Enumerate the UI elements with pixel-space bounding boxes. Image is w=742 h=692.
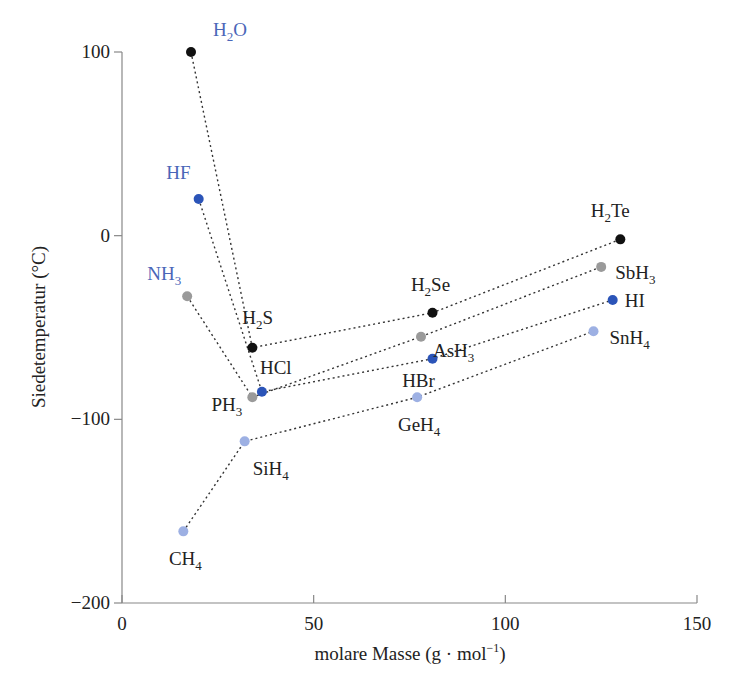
data-point-hcl: [257, 387, 267, 397]
point-label-h2o: H2O: [213, 19, 247, 44]
x-tick-label: 50: [304, 613, 323, 634]
point-label-h2te: H2Te: [591, 200, 630, 225]
series-connector: [183, 331, 593, 531]
y-axis-title: Siedetemperatur (°C): [28, 246, 50, 408]
data-point-h2o: [186, 47, 196, 57]
y-tick-label: −100: [71, 408, 110, 429]
series-connector: [191, 52, 620, 348]
data-points: [178, 47, 625, 536]
data-point-ph3: [247, 392, 257, 402]
point-label-sbh3: SbH3: [615, 262, 655, 287]
x-axis-title: molare Masse (g · mol−1): [314, 641, 505, 665]
data-point-h2se: [428, 308, 438, 318]
y-tick-label: 100: [82, 41, 111, 62]
data-point-hf: [194, 194, 204, 204]
point-label-h2se: H2Se: [411, 274, 450, 299]
point-label-hbr: HBr: [402, 370, 435, 391]
data-point-ch4: [178, 526, 188, 536]
data-point-ash3: [416, 332, 426, 342]
connector-lines: [183, 52, 620, 531]
x-ticks: 050100150: [117, 595, 711, 634]
axes: 1000−100−200 050100150 Siedetemperatur (…: [28, 41, 711, 665]
boiling-point-chart: 1000−100−200 050100150 Siedetemperatur (…: [0, 0, 742, 692]
x-tick-label: 100: [491, 613, 520, 634]
data-point-hi: [608, 295, 618, 305]
point-label-ph3: PH3: [212, 394, 243, 419]
y-tick-label: −200: [71, 592, 110, 613]
point-label-h2s: H2S: [242, 307, 273, 332]
point-labels: H2OH2SH2SeH2TeHFHClHBrHINH3PH3AsH3SbH3CH…: [147, 19, 655, 573]
y-tick-label: 0: [101, 225, 111, 246]
data-point-nh3: [182, 291, 192, 301]
point-label-nh3: NH3: [147, 263, 181, 288]
data-point-geh4: [412, 392, 422, 402]
point-label-hcl: HCl: [260, 357, 292, 378]
data-point-sih4: [240, 436, 250, 446]
point-label-ash3: AsH3: [433, 340, 474, 365]
point-label-ch4: CH4: [169, 548, 202, 573]
point-label-snh4: SnH4: [610, 327, 651, 352]
point-label-sih4: SiH4: [253, 458, 290, 483]
data-point-h2s: [247, 343, 257, 353]
point-label-geh4: GeH4: [398, 414, 441, 439]
point-label-hf: HF: [166, 162, 190, 183]
data-point-h2te: [615, 234, 625, 244]
y-ticks: 1000−100−200: [71, 41, 122, 613]
data-point-snh4: [589, 326, 599, 336]
x-tick-label: 0: [117, 613, 127, 634]
point-label-hi: HI: [625, 290, 645, 311]
data-point-sbh3: [596, 262, 606, 272]
x-tick-label: 150: [683, 613, 712, 634]
